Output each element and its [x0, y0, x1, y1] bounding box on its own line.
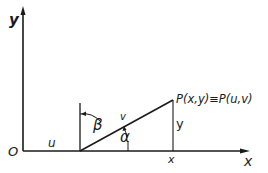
y-axis-arrowhead-icon [21, 6, 26, 15]
y-axis-label: y [9, 11, 20, 29]
x-foot-label: x [167, 153, 175, 166]
x-axis-label: x [243, 153, 253, 169]
alpha-label: α [120, 128, 130, 146]
point-label: P(x,y)≡P(u,v) [176, 92, 252, 106]
beta-label: β [92, 116, 103, 134]
u-label: u [48, 136, 56, 150]
diagram-canvas: y O x u β v α y x P(x,y)≡P(u,v) [0, 0, 268, 173]
origin-label: O [8, 144, 18, 159]
y-height-label: y [176, 116, 184, 131]
v-label: v [120, 111, 127, 122]
beta-arc-arrowhead-icon [81, 112, 86, 117]
